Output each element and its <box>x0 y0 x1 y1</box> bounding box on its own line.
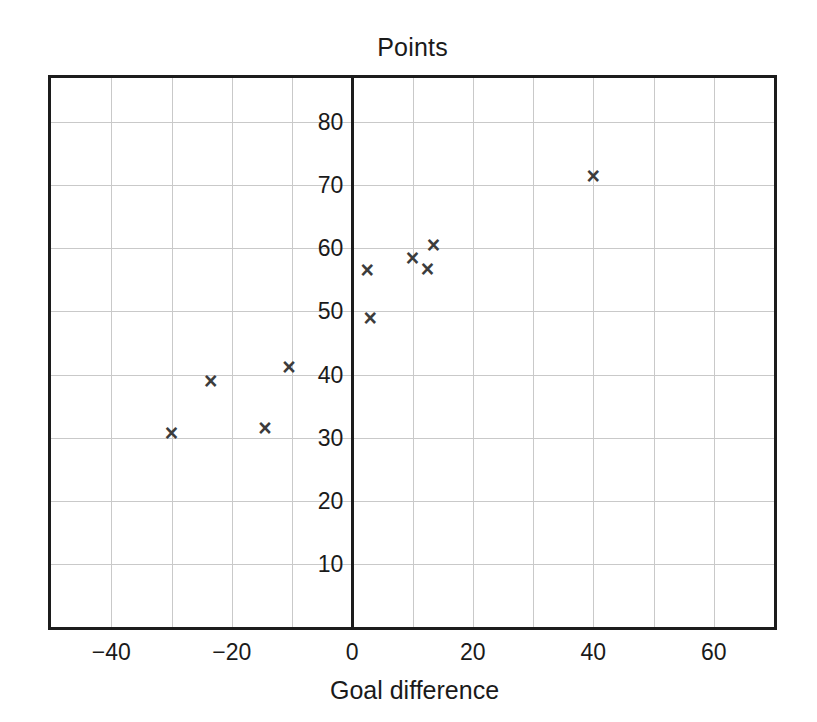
y-tick-label: 60 <box>318 235 352 262</box>
gridline-horizontal <box>51 185 774 186</box>
y-axis-spine <box>351 78 354 627</box>
data-point-marker: × <box>165 422 178 445</box>
data-point-marker: × <box>427 234 440 257</box>
y-tick-label: 80 <box>318 109 352 136</box>
y-tick-label: 70 <box>318 172 352 199</box>
gridline-vertical <box>473 78 474 627</box>
gridline-vertical <box>593 78 594 627</box>
x-tick-label: 40 <box>580 639 606 666</box>
x-axis-label: Goal difference <box>48 676 777 705</box>
x-axis-label-text: Goal difference <box>330 676 499 704</box>
data-point-marker: × <box>204 369 217 392</box>
data-point-marker: × <box>258 417 271 440</box>
gridline-vertical <box>232 78 233 627</box>
data-point-marker: × <box>406 246 419 269</box>
chart-title-text: Points <box>377 33 448 61</box>
data-point-marker: × <box>587 164 600 187</box>
x-tick-label: 60 <box>701 639 727 666</box>
gridline-vertical <box>172 78 173 627</box>
y-tick-label: 20 <box>318 487 352 514</box>
gridline-vertical <box>533 78 534 627</box>
plot-area: ×××××××××× <box>48 75 777 630</box>
gridline-horizontal <box>51 122 774 123</box>
gridline-vertical <box>654 78 655 627</box>
gridline-horizontal <box>51 311 774 312</box>
x-tick-label: 0 <box>346 639 359 666</box>
gridline-vertical <box>714 78 715 627</box>
data-point-marker: × <box>361 259 374 282</box>
gridline-vertical <box>111 78 112 627</box>
y-tick-label: 50 <box>318 298 352 325</box>
x-tick-label: −40 <box>92 639 131 666</box>
data-point-marker: × <box>282 356 295 379</box>
gridline-vertical <box>292 78 293 627</box>
chart-title: Points <box>0 33 817 62</box>
y-tick-label: 40 <box>318 361 352 388</box>
gridline-horizontal <box>51 501 774 502</box>
gridline-horizontal <box>51 375 774 376</box>
chart-page: Points ×××××××××× 1020304050607080−40−20… <box>0 0 817 722</box>
gridline-horizontal <box>51 564 774 565</box>
plot-inner: ×××××××××× <box>51 78 774 627</box>
y-tick-label: 10 <box>318 550 352 577</box>
gridline-horizontal <box>51 438 774 439</box>
x-tick-label: 20 <box>460 639 486 666</box>
data-point-marker: × <box>421 257 434 280</box>
y-tick-label: 30 <box>318 424 352 451</box>
x-tick-label: −20 <box>212 639 251 666</box>
gridline-vertical <box>413 78 414 627</box>
data-point-marker: × <box>364 306 377 329</box>
